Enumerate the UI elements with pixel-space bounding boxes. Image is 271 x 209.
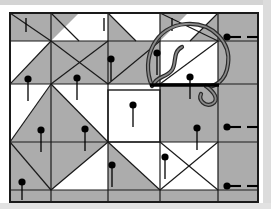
pin-mid-center-head [81, 125, 88, 132]
pin-needle-point-head [186, 73, 193, 80]
pin-lower-right-head [161, 153, 168, 160]
center-ring-upper-right [160, 84, 218, 142]
pin-edge-top-right-head [223, 33, 230, 40]
pin-upper-right-head [107, 55, 114, 62]
page-top-edge [0, 0, 271, 5]
pin-upper-left-head [24, 75, 31, 82]
page-bottom-edge [0, 203, 271, 209]
center-square-patch [108, 90, 160, 142]
pin-edge-bottom-right-head [223, 182, 230, 189]
quilt-diagram-svg [0, 0, 271, 209]
page-right-edge [263, 0, 271, 209]
pin-edge-middle-right-head [223, 123, 230, 130]
pin-bottom-left-head [18, 178, 25, 185]
pin-upper-mid-head [73, 74, 80, 81]
bottom-band-gray [10, 190, 258, 202]
pin-under-thread-head [153, 49, 160, 56]
pin-mid-left-head [37, 126, 44, 133]
pin-lower-center-head [108, 161, 115, 168]
diagram-canvas: Pieced quilt top with pinned basting and… [0, 0, 271, 209]
right-column-lower [218, 84, 258, 190]
center-square-rect [108, 90, 160, 142]
pin-mid-right-head [193, 124, 200, 131]
pin-center-square-head [129, 101, 136, 108]
